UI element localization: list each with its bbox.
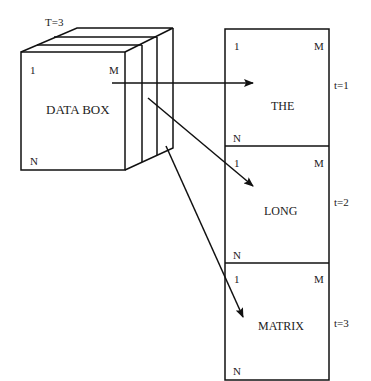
slice-corner-m: M xyxy=(314,40,324,52)
cube-title: DATA BOX xyxy=(46,102,110,117)
slice-word: THE xyxy=(271,99,294,113)
slice-word: LONG xyxy=(264,204,298,218)
cube-corner-n: N xyxy=(30,155,38,167)
slice-2: 1 M N LONG t=2 xyxy=(233,157,349,261)
diagram: T=3 1 M N DATA BOX 1 M N THE t=1 1 M N L… xyxy=(0,0,371,381)
cube-top-face xyxy=(21,28,173,52)
cube-corner-1: 1 xyxy=(30,64,36,76)
slice-corner-1: 1 xyxy=(234,157,240,169)
slice-corner-1: 1 xyxy=(234,273,240,285)
slice-corner-1: 1 xyxy=(234,40,240,52)
slice-word: MATRIX xyxy=(258,319,304,333)
slice-t-label: t=2 xyxy=(334,196,349,208)
arrows xyxy=(112,83,253,317)
arrow-to-slice-3 xyxy=(166,146,243,317)
slice-t-label: t=3 xyxy=(334,317,349,329)
slice-1: 1 M N THE t=1 xyxy=(233,40,349,144)
slice-t-label: t=1 xyxy=(334,79,349,91)
slice-corner-n: N xyxy=(233,132,241,144)
cube-corner-m: M xyxy=(109,64,119,76)
slice-corner-n: N xyxy=(233,365,241,377)
cube-t-label: T=3 xyxy=(45,16,64,28)
slice-corner-n: N xyxy=(233,249,241,261)
slice-corner-m: M xyxy=(314,273,324,285)
slice-3: 1 M N MATRIX t=3 xyxy=(233,273,349,377)
slice-corner-m: M xyxy=(314,157,324,169)
